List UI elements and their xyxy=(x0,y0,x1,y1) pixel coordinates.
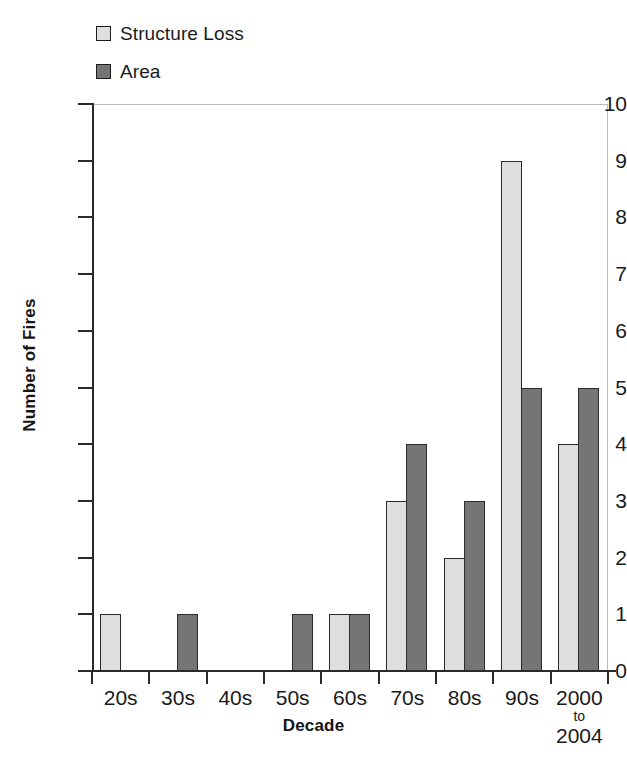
y-axis-tick xyxy=(78,330,92,332)
y-axis-tick-label: 6 xyxy=(569,320,627,341)
x-axis-tick xyxy=(91,671,93,684)
bar xyxy=(349,614,370,671)
bar-chart: Structure Loss Area 012345678910 Number … xyxy=(0,0,627,772)
bar xyxy=(386,501,407,671)
y-axis-tick xyxy=(78,216,92,218)
x-axis-tick xyxy=(263,671,265,684)
y-axis-tick-label: 8 xyxy=(569,206,627,227)
bar xyxy=(578,388,599,672)
chart-legend: Structure Loss Area xyxy=(96,18,356,94)
legend-entry-area: Area xyxy=(96,56,356,86)
x-axis-tick xyxy=(320,671,322,684)
x-axis-tick xyxy=(378,671,380,684)
y-axis-tick-label: 9 xyxy=(569,150,627,171)
y-axis-tick-label: 10 xyxy=(569,93,627,114)
bar xyxy=(329,614,350,671)
y-axis-tick xyxy=(78,443,92,445)
y-axis-line xyxy=(92,103,94,672)
legend-entry-structure-loss: Structure Loss xyxy=(96,18,356,48)
x-axis-tick xyxy=(607,671,609,684)
bar xyxy=(100,614,121,671)
y-axis-tick xyxy=(78,160,92,162)
bar xyxy=(558,444,579,671)
legend-swatch-structure-loss xyxy=(96,26,111,41)
legend-swatch-area xyxy=(96,64,111,79)
y-axis-tick-label: 7 xyxy=(569,263,627,284)
bar xyxy=(521,388,542,672)
bar xyxy=(464,501,485,671)
bar xyxy=(177,614,198,671)
bar xyxy=(444,558,465,671)
y-axis-tick xyxy=(78,273,92,275)
x-axis-tick xyxy=(550,671,552,684)
x-axis-tick xyxy=(435,671,437,684)
x-axis-tick xyxy=(206,671,208,684)
legend-label-structure-loss: Structure Loss xyxy=(120,24,244,43)
x-axis-tick xyxy=(148,671,150,684)
bar xyxy=(292,614,313,671)
y-axis-tick xyxy=(78,557,92,559)
y-axis-tick xyxy=(78,613,92,615)
y-axis-tick xyxy=(78,500,92,502)
y-axis-title: Number of Fires xyxy=(20,250,40,480)
x-axis-category-label-line: 2000 xyxy=(534,686,624,709)
legend-label-area: Area xyxy=(120,62,161,81)
y-axis-tick xyxy=(78,103,92,105)
y-axis-tick xyxy=(78,670,92,672)
x-axis-tick xyxy=(492,671,494,684)
bar xyxy=(501,161,522,671)
x-axis-title: Decade xyxy=(0,716,627,736)
bar xyxy=(406,444,427,671)
y-axis-tick xyxy=(78,387,92,389)
